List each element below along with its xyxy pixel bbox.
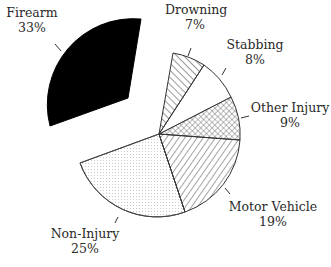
label-pct: 8%: [226, 52, 284, 67]
label-pct: 25%: [50, 241, 120, 256]
label-drowning: Drowning 7%: [165, 2, 225, 32]
label-name: Drowning: [165, 2, 225, 17]
label-name: Non-Injury: [50, 226, 120, 241]
label-other-injury: Other Injury 9%: [250, 100, 330, 130]
label-name: Stabbing: [226, 37, 284, 52]
label-pct: 19%: [228, 214, 318, 229]
label-name: Firearm: [4, 5, 60, 20]
label-non-injury: Non-Injury 25%: [50, 226, 120, 256]
label-name: Other Injury: [250, 100, 330, 115]
label-stabbing: Stabbing 8%: [226, 37, 284, 67]
label-pct: 7%: [165, 17, 225, 32]
slice-firearm: [47, 19, 141, 126]
label-name: Motor Vehicle: [228, 199, 318, 214]
label-pct: 33%: [4, 20, 60, 35]
label-firearm: Firearm 33%: [4, 5, 60, 35]
label-pct: 9%: [250, 115, 330, 130]
label-motor-vehicle: Motor Vehicle 19%: [228, 199, 318, 229]
